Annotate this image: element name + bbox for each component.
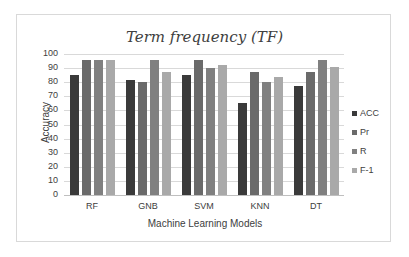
legend-item-pr: Pr: [352, 127, 369, 137]
x-tick-label: RF: [64, 201, 120, 211]
bar-svm-pr: [194, 60, 203, 195]
y-tick-label: 70: [30, 90, 58, 100]
x-tick-label: DT: [288, 201, 344, 211]
bar-svm-acc: [182, 75, 191, 195]
y-tick-label: 30: [30, 147, 58, 157]
bar-gnb-acc: [126, 80, 135, 195]
legend-label: R: [360, 146, 367, 156]
y-tick-label: 50: [30, 119, 58, 129]
x-tick-label: SVM: [176, 201, 232, 211]
y-tick-label: 10: [30, 175, 58, 185]
legend-swatch-icon: [352, 130, 357, 135]
bar-knn-acc: [238, 103, 247, 195]
legend-swatch-icon: [352, 168, 357, 173]
bar-svm-r: [206, 68, 215, 195]
bar-rf-r: [94, 60, 103, 195]
bar-knn-f-1: [274, 77, 283, 195]
x-tick-label: GNB: [120, 201, 176, 211]
x-axis-line: [64, 195, 344, 196]
y-tick-label: 0: [30, 189, 58, 199]
legend-item-r: R: [352, 146, 367, 156]
bar-rf-acc: [70, 75, 79, 195]
y-tick-label: 100: [30, 48, 58, 58]
bar-gnb-r: [150, 60, 159, 195]
bar-dt-acc: [294, 86, 303, 195]
bar-rf-pr: [82, 60, 91, 195]
y-tick-label: 60: [30, 104, 58, 114]
y-tick-label: 80: [30, 76, 58, 86]
bar-knn-pr: [250, 72, 259, 195]
legend-label: F-1: [360, 165, 374, 175]
legend-swatch-icon: [352, 111, 357, 116]
legend-item-acc: ACC: [352, 108, 379, 118]
bar-rf-f-1: [106, 60, 115, 195]
y-tick-label: 20: [30, 161, 58, 171]
legend-item-f-1: F-1: [352, 165, 374, 175]
y-tick-label: 90: [30, 62, 58, 72]
x-axis-label: Machine Learning Models: [60, 218, 350, 229]
legend-label: ACC: [360, 108, 379, 118]
bar-dt-pr: [306, 72, 315, 195]
chart-title: Term frequency (TF): [0, 28, 409, 46]
gridline: [64, 54, 344, 55]
bar-knn-r: [262, 82, 271, 195]
y-tick-label: 40: [30, 133, 58, 143]
legend-swatch-icon: [352, 149, 357, 154]
bar-svm-f-1: [218, 65, 227, 195]
bar-gnb-pr: [138, 82, 147, 195]
bar-gnb-f-1: [162, 72, 171, 195]
legend-label: Pr: [360, 127, 369, 137]
bar-dt-r: [318, 60, 327, 195]
bar-dt-f-1: [330, 67, 339, 195]
x-tick-label: KNN: [232, 201, 288, 211]
